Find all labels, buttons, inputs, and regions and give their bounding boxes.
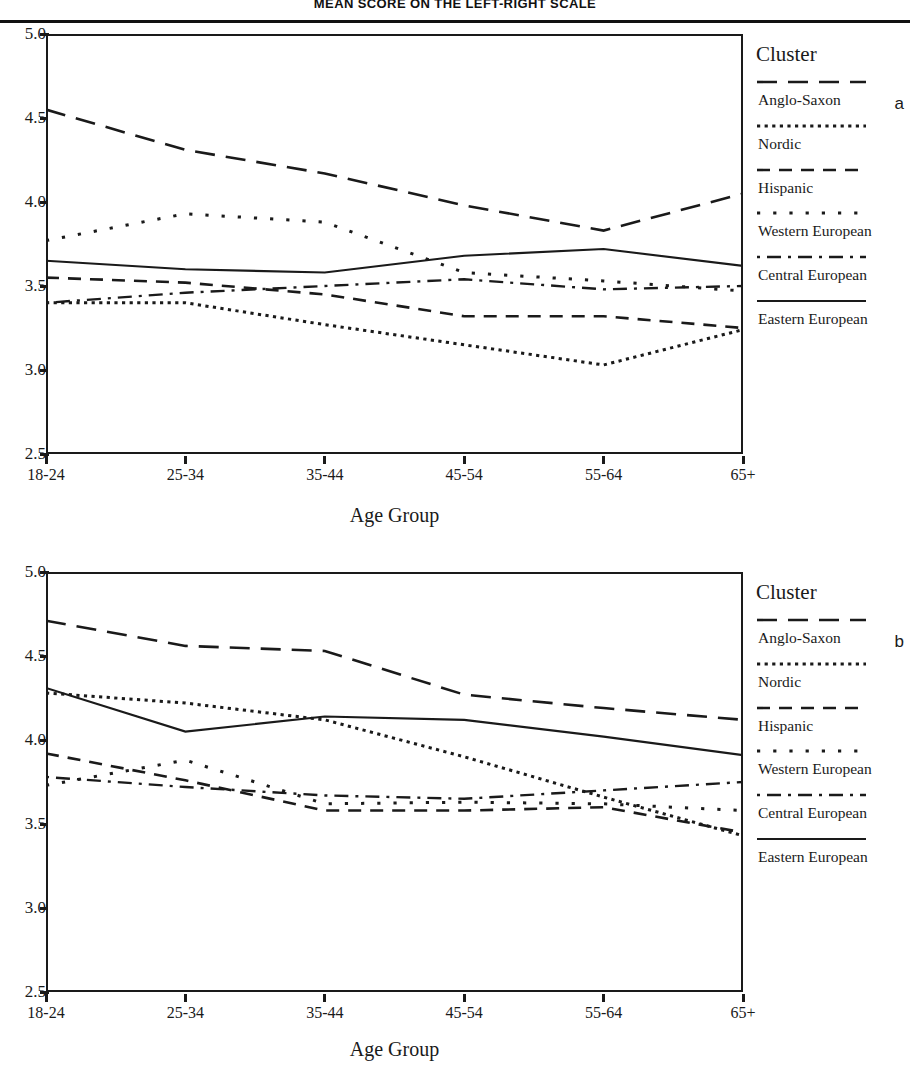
series-line-eastern-european xyxy=(46,688,743,755)
x-tick-label-a-0: 18-24 xyxy=(27,466,64,484)
legend-label-b-2: Hispanic xyxy=(758,717,910,735)
legend-entry-b-nordic[interactable]: Nordic xyxy=(756,656,910,691)
legend-label-b-0: Anglo-Saxon xyxy=(758,629,910,647)
long-dash-line-icon xyxy=(756,612,868,628)
series-line-hispanic xyxy=(46,753,743,832)
x-tick-mark-a-0 xyxy=(45,456,48,464)
legend-label-a-3: Western European xyxy=(758,222,910,240)
series-line-nordic xyxy=(46,303,743,365)
legend-label-b-1: Nordic xyxy=(758,673,910,691)
series-line-anglo-saxon xyxy=(46,621,743,720)
legend-entry-a-central-european[interactable]: Central European xyxy=(756,249,910,284)
chart-lines-a xyxy=(46,34,743,454)
x-tick-mark-a-2 xyxy=(323,456,326,464)
x-tick-label-a-3: 45-54 xyxy=(446,466,483,484)
x-tick-mark-b-1 xyxy=(184,994,187,1002)
figure-title: MEAN SCORE ON THE LEFT-RIGHT SCALE xyxy=(0,0,910,11)
series-line-hispanic xyxy=(46,278,743,328)
x-tick-label-a-4: 55-64 xyxy=(585,466,622,484)
legend-entry-a-hispanic[interactable]: Hispanic xyxy=(756,162,910,197)
x-tick-label-b-4: 55-64 xyxy=(585,1004,622,1022)
x-tick-mark-a-5 xyxy=(742,456,745,464)
title-divider xyxy=(0,20,910,23)
x-axis-b: 18-2425-3435-4445-5455-6465+ xyxy=(46,994,743,1038)
legend-title-a: Cluster xyxy=(756,44,910,65)
series-line-central-european xyxy=(46,279,743,303)
x-axis-title-b: Age Group xyxy=(46,1038,743,1061)
x-tick-label-b-1: 25-34 xyxy=(167,1004,204,1022)
dash-dot-line-icon xyxy=(756,787,868,803)
legend-label-a-5: Eastern European xyxy=(758,310,910,328)
series-line-eastern-european xyxy=(46,249,743,273)
legend-entries-b: Anglo-SaxonNordicHispanicWestern Europea… xyxy=(756,612,910,866)
medium-dash-line-icon xyxy=(756,162,868,178)
legend-label-b-4: Central European xyxy=(758,804,910,822)
long-dash-line-icon xyxy=(756,74,868,90)
series-line-central-european xyxy=(46,777,743,799)
legend-label-a-1: Nordic xyxy=(758,135,910,153)
x-tick-label-a-1: 25-34 xyxy=(167,466,204,484)
legend-entry-a-western-european[interactable]: Western European xyxy=(756,205,910,240)
x-tick-label-b-2: 35-44 xyxy=(306,1004,343,1022)
x-tick-mark-b-3 xyxy=(463,994,466,1002)
series-line-anglo-saxon xyxy=(46,110,743,231)
y-axis-b: 5.04.54.03.53.02.5 xyxy=(0,572,46,992)
x-tick-label-b-3: 45-54 xyxy=(446,1004,483,1022)
legend-a: Cluster a Anglo-SaxonNordicHispanicWeste… xyxy=(756,44,910,337)
x-tick-label-b-0: 18-24 xyxy=(27,1004,64,1022)
chart-panel-b: 5.04.54.03.53.02.5 18-2425-3435-4445-545… xyxy=(0,564,910,1064)
figure-root: MEAN SCORE ON THE LEFT-RIGHT SCALE 5.04.… xyxy=(0,0,910,1067)
legend-label-a-4: Central European xyxy=(758,266,910,284)
panel-letter-a: a xyxy=(895,94,904,114)
chart-lines-b xyxy=(46,572,743,992)
solid-line-icon xyxy=(756,831,868,847)
plot-area-a xyxy=(46,34,743,454)
medium-dash-line-icon xyxy=(756,700,868,716)
legend-entry-b-central-european[interactable]: Central European xyxy=(756,787,910,822)
legend-label-b-3: Western European xyxy=(758,760,910,778)
legend-label-a-0: Anglo-Saxon xyxy=(758,91,910,109)
fine-dotted-line-icon xyxy=(756,118,868,134)
plot-area-b xyxy=(46,572,743,992)
x-tick-mark-b-0 xyxy=(45,994,48,1002)
x-axis-a: 18-2425-3435-4445-5455-6465+ xyxy=(46,456,743,500)
fine-dotted-line-icon xyxy=(756,656,868,672)
legend-entry-b-hispanic[interactable]: Hispanic xyxy=(756,700,910,735)
legend-entry-a-anglo-saxon[interactable]: Anglo-Saxon xyxy=(756,74,910,109)
legend-entries-a: Anglo-SaxonNordicHispanicWestern Europea… xyxy=(756,74,910,328)
legend-label-b-5: Eastern European xyxy=(758,848,910,866)
panel-letter-b: b xyxy=(895,632,904,652)
x-tick-label-a-2: 35-44 xyxy=(306,466,343,484)
y-axis-a: 5.04.54.03.53.02.5 xyxy=(0,34,46,454)
x-tick-mark-b-5 xyxy=(742,994,745,1002)
x-tick-mark-a-3 xyxy=(463,456,466,464)
x-tick-label-a-5: 65+ xyxy=(730,466,755,484)
x-tick-mark-a-1 xyxy=(184,456,187,464)
dash-dot-line-icon xyxy=(756,249,868,265)
legend-entry-b-anglo-saxon[interactable]: Anglo-Saxon xyxy=(756,612,910,647)
legend-entry-a-eastern-european[interactable]: Eastern European xyxy=(756,293,910,328)
chart-panel-a: 5.04.54.03.53.02.5 18-2425-3435-4445-545… xyxy=(0,26,910,536)
sparse-dotted-line-icon xyxy=(756,205,868,221)
legend-title-b: Cluster xyxy=(756,582,910,603)
legend-entry-a-nordic[interactable]: Nordic xyxy=(756,118,910,153)
x-tick-label-b-5: 65+ xyxy=(730,1004,755,1022)
x-axis-title-a: Age Group xyxy=(46,504,743,527)
x-tick-mark-b-2 xyxy=(323,994,326,1002)
legend-label-a-2: Hispanic xyxy=(758,179,910,197)
sparse-dotted-line-icon xyxy=(756,743,868,759)
legend-entry-b-western-european[interactable]: Western European xyxy=(756,743,910,778)
x-tick-mark-b-4 xyxy=(602,994,605,1002)
solid-line-icon xyxy=(756,293,868,309)
legend-entry-b-eastern-european[interactable]: Eastern European xyxy=(756,831,910,866)
x-tick-mark-a-4 xyxy=(602,456,605,464)
legend-b: Cluster b Anglo-SaxonNordicHispanicWeste… xyxy=(756,582,910,875)
